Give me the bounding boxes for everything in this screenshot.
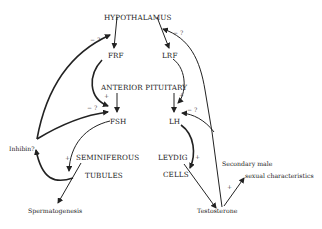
label-tubules: TUBULES <box>85 171 123 180</box>
hpg-axis-diagram: HYPOTHALAMUS FRF LRF ANTERIOR PITUITARY … <box>0 0 322 229</box>
diagram-svg: HYPOTHALAMUS FRF LRF ANTERIOR PITUITARY … <box>0 0 322 229</box>
sign-frf-fsh: + <box>104 92 109 99</box>
label-spermatogenesis: Spermatogenesis <box>28 207 82 215</box>
sign-lrf-lh: + <box>179 91 184 98</box>
arrow-leydig-testosterone <box>184 164 216 208</box>
sign-testo-hyp: − ? <box>173 29 183 36</box>
label-hypothalamus: HYPOTHALAMUS <box>104 13 172 22</box>
label-secondary-line1: Secondary male <box>222 160 273 168</box>
label-lh: LH <box>169 117 180 126</box>
sign-lh-leydig: + <box>195 153 200 160</box>
label-leydig: LEYDIG <box>158 153 188 162</box>
label-testosterone: Testosterone <box>197 207 238 214</box>
sign-inhibin-fsh: − ? <box>87 104 97 111</box>
label-inhibin: Inhibin? <box>9 145 35 152</box>
sign-testo-lh: − ? <box>187 106 197 113</box>
sign-inhibin-hyp: − ? <box>90 36 100 43</box>
label-frf: FRF <box>108 51 124 60</box>
label-secondary-line2: sexual characteristics <box>245 172 314 179</box>
label-seminiferous: SEMINIFEROUS <box>76 153 139 162</box>
label-lrf: LRF <box>162 51 177 60</box>
arrow-inhibin-hyp <box>37 35 110 139</box>
arrow-fsh-tubules <box>69 121 110 171</box>
label-fsh: FSH <box>110 117 126 126</box>
sign-fsh-tubules: + <box>65 154 70 161</box>
sign-testo-secondary: + <box>227 183 232 190</box>
label-cells: CELLS <box>163 170 189 179</box>
label-anterior-pituitary: ANTERIOR PITUITARY <box>100 83 187 92</box>
